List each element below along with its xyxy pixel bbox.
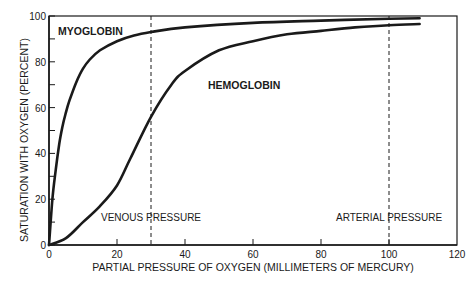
x-tick-label: 0 [46, 249, 52, 260]
x-tick-label: 20 [111, 249, 123, 260]
x-ticks: 020406080100120 [46, 239, 466, 260]
x-tick-label: 80 [315, 249, 327, 260]
plot-frame [49, 16, 457, 245]
y-tick-label: 40 [35, 148, 47, 159]
y-tick-label: 80 [35, 57, 47, 68]
y-tick-label: 100 [29, 11, 46, 22]
x-tick-label: 40 [179, 249, 191, 260]
arterial-pressure-label: ARTERIAL PRESSURE [336, 212, 442, 223]
myoglobin-label: MYOGLOBIN [58, 25, 123, 37]
hemoglobin-label: HEMOGLOBIN [208, 79, 280, 91]
myoglobin-curve [49, 18, 420, 245]
x-axis-label: PARTIAL PRESSURE OF OXYGEN (MILLIMETERS … [92, 261, 414, 273]
x-tick-label: 60 [247, 249, 259, 260]
venous-pressure-label: VENOUS PRESSURE [101, 212, 201, 223]
y-tick-label: 20 [35, 194, 47, 205]
oxygen-dissociation-chart: 020406080100 020406080100120 MYOGLOBIN H… [0, 0, 476, 284]
x-tick-label: 100 [381, 249, 398, 260]
y-axis-label: SATURATION WITH OXYGEN (PERCENT) [18, 38, 30, 242]
x-tick-label: 120 [449, 249, 466, 260]
y-tick-label: 60 [35, 103, 47, 114]
